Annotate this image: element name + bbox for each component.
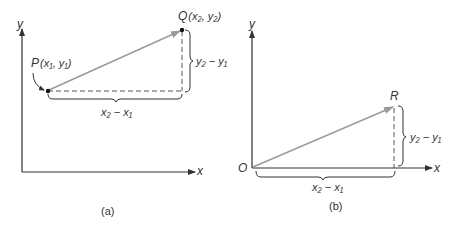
dx-brace-b xyxy=(256,171,395,180)
point-q xyxy=(180,28,184,32)
vector-or xyxy=(253,107,393,167)
point-r-label: R xyxy=(390,89,399,103)
dy-brace-b xyxy=(398,106,406,166)
dy-brace-a xyxy=(185,30,193,92)
y-axis-label-a: y xyxy=(16,17,24,31)
panel-b: y x O R x₂ − x₁ y₂ − y₁ (b) xyxy=(238,17,442,212)
point-p-label: P(x₁, y₁) xyxy=(31,56,72,70)
dy-label-b: y₂ − y₁ xyxy=(409,131,442,143)
vector-diagram: y x P(x₁, y₁) Q(x₂, y₂) x₂ − x₁ y₂ − y₁ … xyxy=(0,0,457,228)
caption-b: (b) xyxy=(329,200,342,212)
point-q-label: Q(x₂, y₂) xyxy=(178,9,222,23)
point-p xyxy=(46,89,50,93)
origin-label: O xyxy=(238,161,247,175)
caption-a: (a) xyxy=(101,205,114,217)
p-pointer-arrow xyxy=(33,73,44,90)
dx-label-b: x₂ − x₁ xyxy=(311,181,344,193)
x-axis-label-b: x xyxy=(433,161,441,175)
dx-label-a: x₂ − x₁ xyxy=(100,106,133,118)
panel-a: y x P(x₁, y₁) Q(x₂, y₂) x₂ − x₁ y₂ − y₁ … xyxy=(16,9,228,217)
y-axis-label-b: y xyxy=(248,17,256,31)
dx-brace-a xyxy=(48,94,182,102)
x-axis-label-a: x xyxy=(196,164,204,178)
dy-label-a: y₂ − y₁ xyxy=(195,55,228,67)
